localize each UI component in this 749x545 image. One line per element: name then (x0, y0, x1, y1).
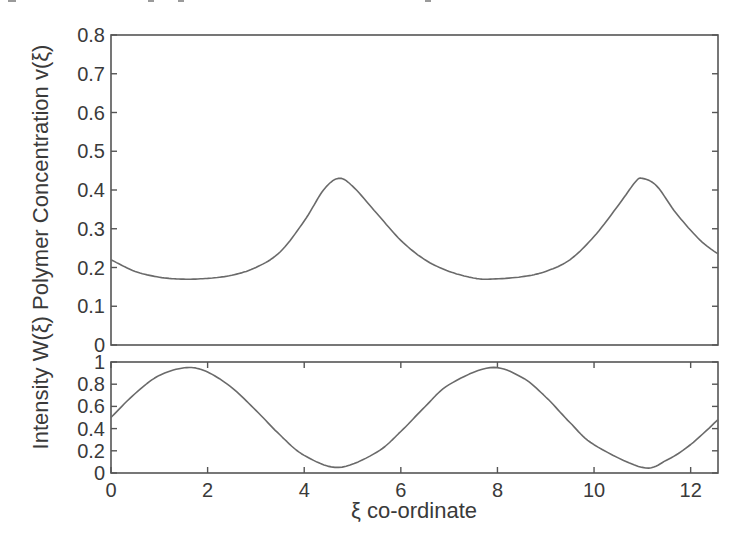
polymer-concentration-curve (111, 178, 718, 279)
x-tick-label: 8 (492, 479, 503, 501)
x-tick-label: 2 (202, 479, 213, 501)
y-tick-label: 0.5 (77, 140, 105, 162)
cropped-caption-fragments (8, 0, 431, 2)
y-tick-label: 0.7 (77, 63, 105, 85)
y-tick-label: 0.6 (77, 102, 105, 124)
y-tick-label: 0.3 (77, 218, 105, 240)
x-tick-label: 10 (583, 479, 605, 501)
x-tick-label: 4 (299, 479, 310, 501)
bottom-panel-intensity: 00.20.40.60.81 024681012 (77, 351, 718, 501)
x-tick-label: 12 (680, 479, 702, 501)
y-tick-label: 0.4 (77, 418, 105, 440)
y-tick-label: 1 (94, 351, 105, 373)
bottom-x-ticks: 024681012 (105, 362, 701, 501)
top-panel-polymer-concentration: 00.10.20.30.40.50.60.70.8 (77, 24, 718, 356)
y-tick-label: 0.2 (77, 440, 105, 462)
intensity-curve (111, 367, 718, 468)
y-tick-label: 0.8 (77, 24, 105, 46)
y-axis-label: Intensity W(ξ) Polymer Concentration v(ξ… (28, 45, 53, 450)
y-tick-label: 0.2 (77, 257, 105, 279)
figure: Intensity W(ξ) Polymer Concentration v(ξ… (0, 0, 749, 545)
top-y-ticks: 00.10.20.30.40.50.60.70.8 (77, 24, 718, 356)
x-axis-label: ξ co-ordinate (351, 498, 477, 523)
y-tick-label: 0 (94, 462, 105, 484)
x-tick-label: 0 (105, 479, 116, 501)
y-tick-label: 0.4 (77, 179, 105, 201)
top-plot-frame (111, 35, 718, 345)
y-tick-label: 0.6 (77, 395, 105, 417)
y-tick-label: 0.8 (77, 373, 105, 395)
y-tick-label: 0.1 (77, 295, 105, 317)
bottom-y-ticks: 00.20.40.60.81 (77, 351, 718, 484)
